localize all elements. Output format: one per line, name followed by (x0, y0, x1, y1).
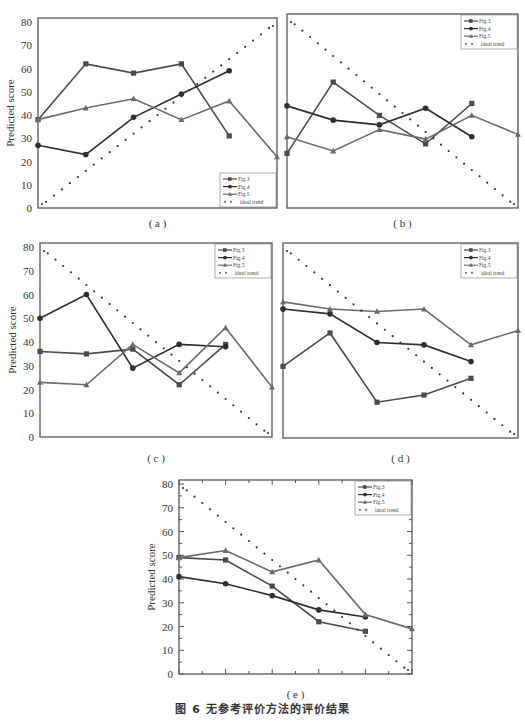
y-tick-label: 70 (21, 39, 33, 51)
svg-text:Fig.5: Fig.5 (479, 33, 491, 39)
series-fig-3 (37, 342, 228, 388)
y-tick-label: 40 (162, 573, 174, 585)
y-tick-label: 60 (23, 289, 35, 301)
y-tick-label: 20 (21, 156, 33, 168)
y-axis-label: Predicted score (145, 543, 157, 611)
svg-text:Fig.4: Fig.4 (479, 26, 491, 32)
svg-text:ideal trend: ideal trend (481, 270, 505, 276)
legend: Fig.3Fig.4Fig.5ideal trend (215, 244, 271, 278)
svg-text:Fig.4: Fig.4 (479, 255, 491, 261)
svg-text:Fig.3: Fig.3 (479, 18, 491, 24)
panel-label: ( c ) (147, 452, 165, 465)
svg-text:Fig.5: Fig.5 (233, 262, 245, 268)
y-tick-label: 60 (162, 526, 174, 538)
svg-text:Fig.4: Fig.4 (373, 492, 385, 498)
y-tick-label: 80 (21, 16, 33, 28)
chart-panel-e: 01020304050607080Predicted scoreFig.3Fig… (145, 478, 415, 701)
y-tick-label: 30 (23, 360, 35, 372)
svg-text:ideal trend: ideal trend (235, 270, 259, 276)
svg-text:ideal trend: ideal trend (375, 507, 399, 513)
svg-text:Fig.5: Fig.5 (373, 499, 385, 505)
figure-canvas: 01020304050607080Predicted scoreFig.3Fig… (0, 0, 525, 722)
series-fig-5 (280, 299, 521, 348)
legend: Fig.3Fig.4Fig.5ideal trend (355, 481, 411, 515)
svg-text:Fig.4: Fig.4 (238, 184, 250, 190)
y-axis-label: Predicted score (4, 79, 16, 147)
figure-caption: 图 6 无参考评价方法的评价结果 (0, 700, 525, 716)
legend: Fig.3Fig.4Fig.5ideal trend (461, 15, 517, 49)
y-tick-label: 60 (21, 63, 33, 75)
y-tick-label: 20 (162, 621, 174, 633)
y-tick-label: 10 (162, 644, 174, 656)
y-tick-label: 30 (21, 132, 33, 144)
svg-text:Fig.5: Fig.5 (238, 191, 250, 197)
y-tick-label: 20 (23, 384, 35, 396)
y-tick-label: 0 (27, 202, 33, 214)
y-tick-label: 70 (23, 265, 35, 277)
series-fig-4 (284, 103, 474, 139)
y-tick-label: 30 (162, 597, 174, 609)
y-tick-label: 70 (162, 502, 174, 514)
y-axis-label: Predicted score (6, 306, 18, 374)
svg-text:Fig.3: Fig.3 (479, 247, 491, 253)
series-fig-4 (280, 306, 474, 364)
y-tick-label: 10 (23, 407, 35, 419)
chart-panel-a: 01020304050607080Predicted scoreFig.3Fig… (4, 16, 280, 230)
svg-text:Fig.4: Fig.4 (233, 255, 245, 261)
y-tick-label: 50 (21, 86, 33, 98)
y-tick-label: 50 (162, 549, 174, 561)
y-tick-label: 40 (23, 336, 35, 348)
svg-text:Fig.3: Fig.3 (238, 176, 250, 182)
chart-panel-b: Fig.3Fig.4Fig.5ideal trend( b ) (284, 14, 521, 230)
y-tick-label: 80 (23, 241, 35, 253)
series-fig-4 (176, 574, 368, 620)
panel-label: ( a ) (149, 217, 167, 230)
chart-panel-c: 01020304050607080Predicted scoreFig.3Fig… (6, 241, 275, 465)
y-tick-label: 40 (21, 109, 33, 121)
y-tick-label: 10 (21, 179, 33, 191)
y-tick-label: 0 (168, 668, 174, 680)
y-tick-label: 80 (162, 478, 174, 490)
svg-text:ideal trend: ideal trend (481, 41, 505, 47)
y-tick-label: 0 (29, 431, 35, 443)
y-tick-label: 50 (23, 312, 35, 324)
legend: Fig.3Fig.4Fig.5ideal trend (461, 244, 517, 278)
legend: Fig.3Fig.4Fig.5ideal trend (220, 173, 276, 207)
svg-text:Fig.5: Fig.5 (479, 262, 491, 268)
svg-text:ideal trend: ideal trend (240, 199, 264, 205)
series-fig-4 (37, 292, 228, 371)
chart-panel-d: Fig.3Fig.4Fig.5ideal trend( d ) (280, 243, 521, 465)
svg-text:Fig.3: Fig.3 (373, 484, 385, 490)
panel-label: ( d ) (391, 452, 410, 465)
series-fig-5 (284, 112, 521, 153)
svg-text:Fig.3: Fig.3 (233, 247, 245, 253)
panel-label: ( b ) (393, 217, 412, 230)
